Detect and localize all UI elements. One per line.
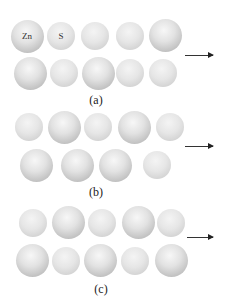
- zn-atom-sphere: [99, 149, 132, 182]
- zn-atom-sphere: [14, 57, 47, 90]
- zn-atom-sphere: [84, 244, 117, 277]
- atom-label: S: [47, 31, 75, 41]
- s-atom-sphere: [52, 247, 80, 275]
- zn-atom-sphere: [48, 111, 81, 144]
- zn-atom-sphere: Zn: [11, 20, 44, 53]
- s-atom-sphere: [143, 151, 171, 179]
- s-atom-sphere: [116, 59, 144, 87]
- s-atom-sphere: [121, 247, 149, 275]
- s-atom-sphere: [15, 113, 43, 141]
- s-atom-sphere: [50, 59, 78, 87]
- panel-label: (b): [89, 185, 103, 200]
- zn-atom-sphere: [16, 244, 49, 277]
- direction-arrow-icon: [185, 146, 213, 147]
- s-atom-sphere: [81, 22, 109, 50]
- panel-label: (a): [89, 93, 102, 108]
- zn-atom-sphere: [20, 149, 53, 182]
- s-atom-sphere: [88, 209, 116, 237]
- s-atom-sphere: [157, 209, 185, 237]
- zn-atom-sphere: [155, 244, 188, 277]
- zn-atom-sphere: [149, 19, 182, 52]
- s-atom-sphere: [156, 113, 184, 141]
- s-atom-sphere: S: [47, 22, 75, 50]
- zn-atom-sphere: [52, 206, 85, 239]
- s-atom-sphere: [84, 113, 112, 141]
- zn-atom-sphere: [82, 57, 115, 90]
- zn-atom-sphere: [122, 206, 155, 239]
- s-atom-sphere: [149, 59, 177, 87]
- atom-label: Zn: [11, 31, 44, 41]
- s-atom-sphere: [19, 209, 47, 237]
- zn-atom-sphere: [118, 111, 151, 144]
- zn-atom-sphere: [61, 149, 94, 182]
- direction-arrow-icon: [187, 237, 213, 238]
- s-atom-sphere: [116, 22, 144, 50]
- panel-label: (c): [94, 282, 107, 297]
- direction-arrow-icon: [185, 55, 213, 56]
